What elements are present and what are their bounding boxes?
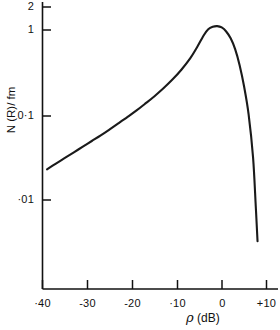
- figure-container: 2 1 0·1 ·01 ·40 -30 -20 ·10 0 +10 N (R)/…: [0, 0, 280, 330]
- x-tick-label-plus-10: +10: [249, 298, 280, 309]
- x-tick-label-minus-30: -30: [70, 298, 105, 309]
- data-series-curve: [47, 26, 258, 241]
- x-tick-label-0: 0: [205, 298, 240, 309]
- x-tick-label-minus-10: ·10: [160, 298, 195, 309]
- chart-plot-area: [0, 0, 280, 330]
- x-axis-ticks: [43, 280, 267, 289]
- x-tick-label-minus-40: ·40: [25, 298, 60, 309]
- y-tick-label-0-01: ·01: [2, 194, 34, 205]
- y-tick-label-2: 2: [8, 1, 34, 12]
- x-axis-title: ρ (dB): [186, 311, 220, 325]
- y-axis-title: N (R)/ fm: [5, 68, 17, 152]
- rho-symbol: ρ: [186, 310, 194, 325]
- x-tick-label-minus-20: -20: [115, 298, 150, 309]
- x-axis-unit: (dB): [197, 311, 220, 325]
- y-tick-label-1: 1: [8, 24, 34, 35]
- y-axis-ticks: [43, 7, 52, 200]
